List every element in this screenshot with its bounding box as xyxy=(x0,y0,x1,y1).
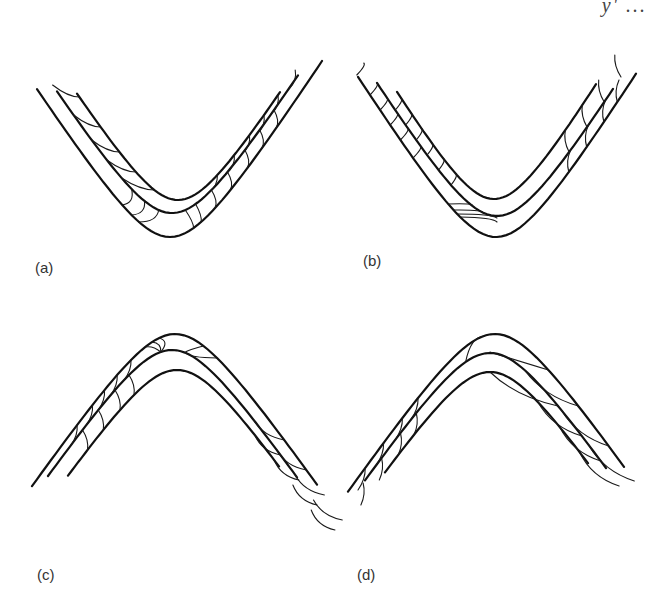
panel-a-cleavage-trace xyxy=(122,189,132,205)
panel-label-b: (b) xyxy=(363,252,381,269)
panel-b-cleavage-trace xyxy=(599,80,605,102)
panel-b-cleavage-trace xyxy=(413,146,421,158)
panel-b-bedding-surface-2 xyxy=(377,83,613,216)
panel-b-cleavage-trace xyxy=(370,83,378,95)
fold-diagram xyxy=(0,0,665,601)
panel-b-cleavage-trace xyxy=(357,63,365,75)
panel-c-cleavage-trace xyxy=(254,420,285,440)
panel-d-bedding-surface-3 xyxy=(385,372,588,472)
panel-d-antiform xyxy=(348,334,634,505)
panel-d-cleavage-trace xyxy=(361,483,364,505)
panel-a-cleavage-trace xyxy=(211,190,216,208)
panel-c-cleavage-trace xyxy=(98,410,103,430)
panel-b-cleavage-trace xyxy=(565,130,569,152)
panel-d-cleavage-trace xyxy=(525,370,579,406)
panel-c-bedding-surface-3 xyxy=(68,370,279,476)
panel-c-cleavage-trace xyxy=(311,510,335,530)
panel-a-cleavage-trace xyxy=(196,204,202,222)
panel-c-bedding-surface-1 xyxy=(32,334,317,486)
panel-c-cleavage-trace xyxy=(293,485,317,505)
panel-b-cleavage-trace xyxy=(615,55,621,77)
panel-a-cleavage-trace xyxy=(185,210,193,228)
panel-a-cleavage-trace xyxy=(132,201,145,215)
panel-label-a: (a) xyxy=(35,259,53,276)
panel-label-c: (c) xyxy=(37,566,55,583)
panel-a-synform xyxy=(37,61,322,237)
panel-a-cleavage-trace xyxy=(228,172,232,190)
panel-b-bedding-surface-3 xyxy=(397,84,596,199)
panel-a-bedding-surface-2 xyxy=(57,75,298,213)
panel-b-cleavage-trace xyxy=(448,204,472,206)
panel-c-cleavage-trace xyxy=(83,430,88,450)
panel-c-cleavage-trace xyxy=(295,475,324,495)
panel-c-cleavage-trace xyxy=(115,390,120,410)
panel-b-cleavage-trace xyxy=(582,105,587,127)
panel-c-cleavage-trace xyxy=(314,500,343,520)
panel-d-cleavage-trace xyxy=(466,336,484,362)
panel-a-bedding-surface-1 xyxy=(37,61,322,237)
panel-a-bedding-surface-3 xyxy=(77,92,280,200)
panel-label-d: (d) xyxy=(357,566,375,583)
panel-b-cleavage-trace xyxy=(395,98,402,110)
panel-c-cleavage-trace xyxy=(159,338,165,352)
panel-b-bedding-surface-1 xyxy=(358,74,636,237)
panel-b-cleavage-trace xyxy=(380,98,388,110)
panel-b-cleavage-trace xyxy=(390,113,398,125)
panel-b-synform xyxy=(357,55,636,237)
panel-c-cleavage-trace xyxy=(277,450,307,470)
panel-a-cleavage-trace xyxy=(260,130,264,148)
panel-c-cleavage-trace xyxy=(129,375,134,395)
panel-d-cleavage-trace xyxy=(580,452,620,486)
panel-c-cleavage-trace xyxy=(145,347,161,352)
panel-c-cleavage-trace xyxy=(185,346,203,353)
panel-a-cleavage-trace xyxy=(274,110,278,128)
panel-a-cleavage-trace xyxy=(245,150,249,168)
panel-c-antiform xyxy=(32,334,342,530)
panel-b-cleavage-trace xyxy=(400,128,408,140)
